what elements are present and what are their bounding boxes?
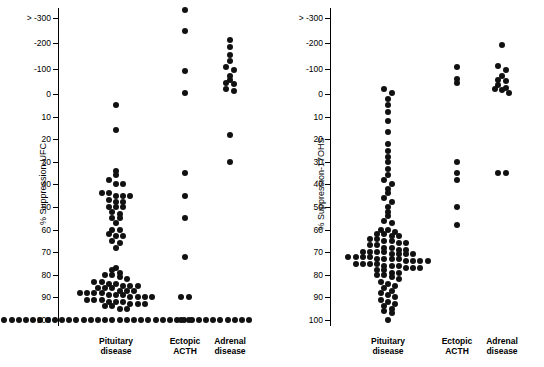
y-tick	[325, 18, 330, 19]
data-point	[389, 238, 395, 244]
data-point	[145, 317, 151, 323]
y-tick	[53, 43, 58, 44]
y-tick-label: -200	[34, 38, 51, 48]
data-point	[410, 251, 416, 257]
data-point	[231, 81, 237, 87]
data-point	[403, 258, 409, 264]
y-tick-label: 90	[42, 292, 51, 302]
data-point	[396, 233, 402, 239]
data-point	[381, 86, 387, 92]
y-tick-label: 10	[314, 112, 323, 122]
data-point	[389, 263, 395, 269]
y-tick-label: 90	[314, 292, 323, 302]
data-point	[117, 317, 123, 323]
data-point	[88, 317, 94, 323]
data-point	[506, 90, 512, 96]
data-point	[182, 7, 188, 13]
y-tick	[325, 139, 330, 140]
y-tick	[325, 320, 330, 321]
data-point	[239, 317, 245, 323]
data-point	[381, 249, 387, 255]
y-tick	[325, 43, 330, 44]
data-point	[186, 294, 192, 300]
data-point	[135, 301, 141, 307]
category-label-1: EctopicACTH	[170, 336, 201, 356]
y-tick	[53, 207, 58, 208]
y-tick-label: 50	[314, 202, 323, 212]
y-tick-label: 0	[46, 89, 51, 99]
data-point	[182, 90, 188, 96]
data-point	[120, 204, 126, 210]
y-tick-label: > -300	[299, 13, 323, 23]
y-tick-label: 30	[42, 157, 51, 167]
data-point	[1, 317, 7, 323]
data-point	[99, 290, 105, 296]
data-point	[77, 290, 83, 296]
data-point	[203, 317, 209, 323]
data-point	[499, 87, 505, 93]
data-point	[91, 290, 97, 296]
data-point	[73, 317, 79, 323]
data-point	[410, 265, 416, 271]
y-tick-label: 100	[309, 315, 323, 325]
data-point	[381, 256, 387, 262]
y-tick-label: 10	[42, 112, 51, 122]
data-point	[367, 242, 373, 248]
data-point	[91, 297, 97, 303]
data-point	[52, 317, 58, 323]
data-point	[389, 310, 395, 316]
data-point	[374, 242, 380, 248]
data-point	[385, 159, 391, 165]
data-point	[360, 261, 366, 267]
data-point	[37, 317, 43, 323]
y-tick-label: -100	[34, 64, 51, 74]
data-point	[196, 317, 202, 323]
data-point	[385, 109, 391, 115]
data-point	[454, 64, 460, 70]
data-point	[381, 238, 387, 244]
data-point	[396, 256, 402, 262]
data-point	[389, 220, 395, 226]
y-tick	[325, 162, 330, 163]
y-tick	[325, 207, 330, 208]
plot-area-left: > -300-200-1000102030405060708090100Pitu…	[58, 8, 248, 326]
data-point	[410, 258, 416, 264]
data-point	[210, 317, 216, 323]
y-tick	[53, 94, 58, 95]
y-axis-line-left	[58, 8, 59, 326]
y-tick-label: 40	[314, 179, 323, 189]
data-point	[495, 170, 501, 176]
data-point	[135, 294, 141, 300]
data-point	[454, 80, 460, 86]
data-point	[367, 254, 373, 260]
data-point	[124, 317, 130, 323]
figure-root: % Suppression-UFC > -300-200-10001020304…	[0, 0, 544, 367]
data-point	[381, 195, 387, 201]
data-point	[396, 276, 402, 282]
data-point	[120, 233, 126, 239]
data-point	[227, 132, 233, 138]
data-point	[454, 159, 460, 165]
data-point	[495, 63, 501, 69]
data-point	[345, 254, 351, 260]
data-point	[178, 317, 184, 323]
chart-panel-ufc: % Suppression-UFC > -300-200-10001020304…	[0, 0, 272, 367]
data-point	[385, 141, 391, 147]
data-point	[59, 317, 65, 323]
y-tick-label: 0	[318, 89, 323, 99]
data-point	[503, 170, 509, 176]
data-point	[385, 118, 391, 124]
data-point	[353, 261, 359, 267]
data-point	[149, 294, 155, 300]
data-point	[417, 265, 423, 271]
y-tick	[53, 117, 58, 118]
data-point	[102, 303, 108, 309]
y-tick-label: 20	[314, 134, 323, 144]
y-tick	[325, 252, 330, 253]
data-point	[454, 204, 460, 210]
data-point	[182, 68, 188, 74]
data-point	[396, 240, 402, 246]
y-tick-label: 80	[314, 270, 323, 280]
data-point	[232, 317, 238, 323]
data-point	[84, 297, 90, 303]
